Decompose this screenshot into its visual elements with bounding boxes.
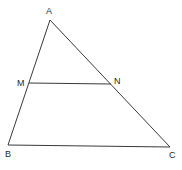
segment-bc [8, 145, 170, 147]
segment-mn [29, 83, 111, 84]
label-c: C [169, 151, 176, 160]
label-a: A [46, 7, 52, 16]
segment-ab [8, 20, 50, 145]
label-n: N [114, 77, 121, 86]
diagram-lines [0, 0, 182, 170]
label-m: M [17, 79, 25, 88]
triangle-diagram: A M N B C [0, 0, 182, 170]
label-b: B [5, 150, 11, 159]
